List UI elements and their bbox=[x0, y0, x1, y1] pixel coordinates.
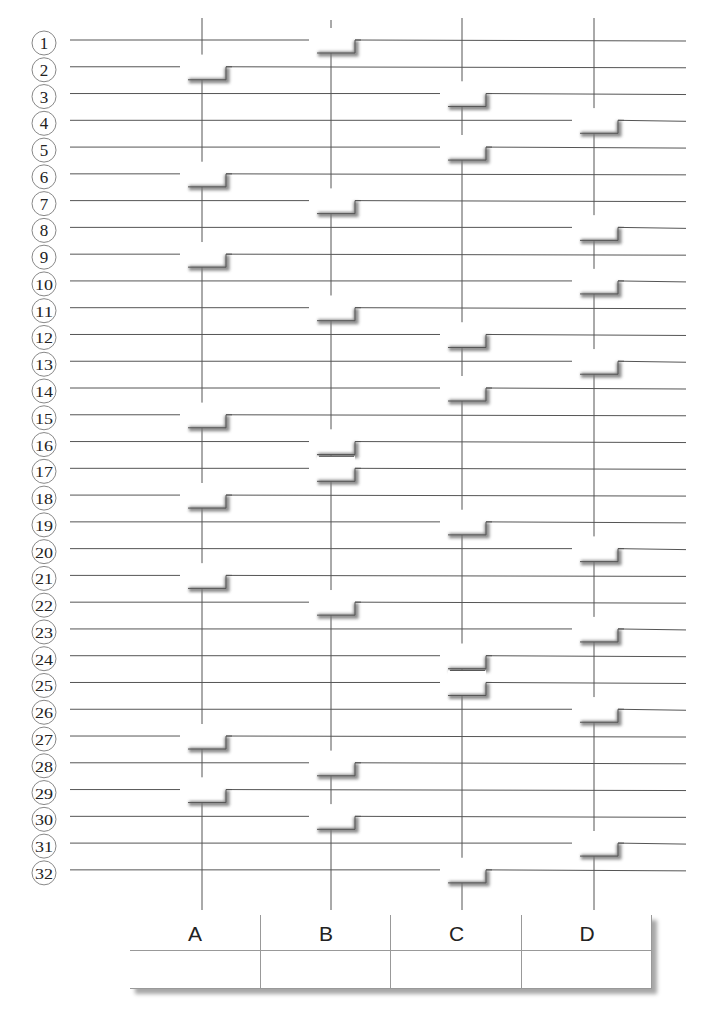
table-col-c: C bbox=[390, 915, 522, 988]
row-number-label: 6 bbox=[32, 165, 56, 189]
row-line bbox=[226, 415, 686, 416]
step-9-a bbox=[188, 242, 232, 268]
steps bbox=[188, 28, 624, 884]
step-5-c bbox=[448, 135, 492, 161]
table-cell-c[interactable] bbox=[391, 951, 522, 988]
row-number-label: 11 bbox=[32, 299, 56, 323]
row-line bbox=[618, 361, 686, 362]
step-19-c bbox=[448, 510, 492, 536]
row-number-label: 7 bbox=[32, 192, 56, 216]
svg-text:25: 25 bbox=[35, 678, 53, 694]
svg-text:30: 30 bbox=[35, 812, 53, 828]
row-number-label: 8 bbox=[32, 218, 56, 242]
svg-text:31: 31 bbox=[35, 839, 53, 855]
step-14-c bbox=[448, 376, 492, 402]
row-number-label: 14 bbox=[32, 379, 56, 403]
step-25-c bbox=[448, 670, 492, 696]
svg-text:27: 27 bbox=[35, 732, 54, 748]
row-line bbox=[226, 174, 686, 175]
row-line bbox=[486, 522, 686, 523]
row-line bbox=[355, 40, 686, 41]
table-header-c: C bbox=[391, 915, 522, 951]
svg-text:8: 8 bbox=[40, 221, 49, 240]
step-7-b bbox=[317, 189, 361, 215]
svg-text:23: 23 bbox=[35, 625, 53, 641]
row-number-label: 26 bbox=[32, 700, 56, 724]
row-line bbox=[618, 549, 686, 550]
step-21-a bbox=[188, 563, 232, 589]
row-number-label: 31 bbox=[32, 834, 56, 858]
row-number-label: 20 bbox=[32, 540, 56, 564]
step-3-c bbox=[448, 82, 492, 108]
table-cell-d[interactable] bbox=[522, 951, 652, 988]
svg-text:32: 32 bbox=[35, 866, 53, 882]
svg-text:29: 29 bbox=[35, 786, 53, 802]
step-15-a bbox=[188, 403, 232, 429]
step-1-b bbox=[317, 28, 361, 54]
step-29-a bbox=[188, 778, 232, 804]
row-number-label: 24 bbox=[32, 647, 56, 671]
svg-text:4: 4 bbox=[40, 114, 49, 133]
row-labels: 1234567891011121314151617181920212223242… bbox=[32, 31, 56, 885]
row-number-label: 1 bbox=[32, 31, 56, 55]
row-line bbox=[355, 816, 686, 817]
row-line bbox=[618, 843, 686, 844]
row-number-label: 32 bbox=[32, 861, 56, 885]
row-number-label: 2 bbox=[32, 58, 56, 82]
svg-text:20: 20 bbox=[35, 545, 53, 561]
step-26-d bbox=[580, 697, 624, 723]
step-18-a bbox=[188, 483, 232, 509]
row-number-label: 9 bbox=[32, 245, 56, 269]
svg-text:7: 7 bbox=[40, 195, 49, 214]
step-8-d bbox=[580, 215, 624, 241]
step-22-b bbox=[317, 590, 361, 616]
svg-text:10: 10 bbox=[35, 277, 53, 293]
step-4-d bbox=[580, 108, 624, 134]
svg-text:3: 3 bbox=[40, 88, 49, 107]
row-line bbox=[355, 442, 686, 443]
svg-text:9: 9 bbox=[40, 248, 49, 267]
row-number-label: 4 bbox=[32, 111, 56, 135]
table-cell-a[interactable] bbox=[130, 951, 260, 988]
step-30-b bbox=[317, 804, 361, 830]
svg-text:22: 22 bbox=[35, 598, 53, 614]
row-number-label: 28 bbox=[32, 754, 56, 778]
svg-text:1: 1 bbox=[40, 34, 49, 53]
svg-text:13: 13 bbox=[35, 357, 53, 373]
row-line bbox=[486, 656, 686, 657]
row-number-label: 29 bbox=[32, 781, 56, 805]
row-number-label: 16 bbox=[32, 433, 56, 457]
row-line bbox=[618, 227, 686, 228]
row-line bbox=[226, 575, 686, 576]
row-line bbox=[486, 147, 686, 148]
row-line bbox=[226, 67, 686, 68]
svg-text:2: 2 bbox=[40, 61, 49, 80]
row-number-label: 5 bbox=[32, 138, 56, 162]
step-24-c bbox=[448, 644, 492, 670]
row-number-label: 17 bbox=[32, 459, 56, 483]
row-line bbox=[355, 602, 686, 603]
result-table: A B C D bbox=[130, 915, 652, 989]
row-number-label: 15 bbox=[32, 406, 56, 430]
row-number-label: 25 bbox=[32, 673, 56, 697]
row-number-label: 27 bbox=[32, 727, 56, 751]
step-10-d bbox=[580, 269, 624, 295]
row-line bbox=[226, 495, 686, 496]
svg-text:21: 21 bbox=[35, 571, 53, 587]
step-11-b bbox=[317, 296, 361, 322]
step-23-d bbox=[580, 617, 624, 643]
row-line bbox=[618, 709, 686, 710]
row-line bbox=[486, 334, 686, 335]
row-line bbox=[355, 308, 686, 309]
table-col-b: B bbox=[260, 915, 391, 988]
row-number-label: 21 bbox=[32, 566, 56, 590]
row-number-label: 19 bbox=[32, 513, 56, 537]
step-28-b bbox=[317, 751, 361, 777]
row-line bbox=[486, 870, 686, 871]
step-12-c bbox=[448, 322, 492, 348]
step-31-d bbox=[580, 831, 624, 857]
table-cell-b[interactable] bbox=[261, 951, 391, 988]
step-32-c bbox=[448, 858, 492, 884]
step-6-a bbox=[188, 162, 232, 188]
row-line bbox=[355, 468, 686, 469]
